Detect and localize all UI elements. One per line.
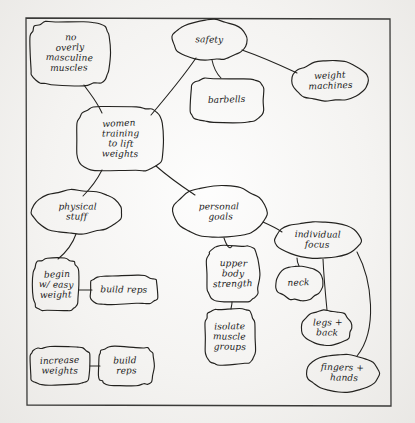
- node-label-upper-body: upper: [220, 258, 248, 268]
- edge-center-to-safety: [151, 58, 196, 115]
- node-label-personal-goals: goals: [208, 211, 233, 222]
- node-label-fingers-hands: fingers +: [320, 362, 365, 373]
- node-label-center: to lift: [108, 138, 134, 149]
- node-label-fingers-hands: hands: [330, 372, 358, 383]
- node-increase-weights[interactable]: increaseweights: [30, 346, 90, 385]
- node-label-no-masculine: no: [65, 32, 77, 42]
- node-label-physical-stuff: physical: [58, 201, 96, 211]
- node-label-begin-easy: weight: [40, 289, 72, 300]
- node-label-no-masculine: masculine: [46, 52, 93, 63]
- node-personal-goals[interactable]: personalgoals: [172, 186, 267, 238]
- node-label-increase-weights: weights: [41, 366, 78, 376]
- node-individual-focus[interactable]: individualfocus: [275, 222, 362, 259]
- node-label-legs-back: legs +: [313, 317, 343, 327]
- node-weight-machines[interactable]: weightmachines: [292, 61, 369, 102]
- node-label-individual-focus: individual: [295, 229, 341, 240]
- node-barbells[interactable]: barbells: [190, 78, 264, 123]
- node-label-begin-easy: w/ easy: [39, 279, 75, 290]
- node-legs-back[interactable]: legs +back: [301, 310, 351, 346]
- node-label-center: training: [102, 128, 139, 139]
- edge-physical-stuff-to-begin-easy: [58, 234, 76, 259]
- node-label-build-reps-1: build reps: [100, 284, 147, 295]
- node-build-reps-2[interactable]: buildreps: [98, 346, 154, 386]
- node-label-safety: safety: [195, 34, 224, 45]
- edge-personal-goals-to-upper-body: [224, 238, 232, 248]
- concept-map-drawing: womentrainingto liftweightsnooverlymascu…: [0, 0, 415, 423]
- edge-individual-focus-to-fingers-hands: [357, 252, 371, 356]
- node-upper-body[interactable]: upperbodystrength: [206, 245, 260, 302]
- edge-individual-focus-to-legs-back: [323, 259, 327, 310]
- edge-center-to-personal-goals: [156, 166, 195, 195]
- node-begin-easy[interactable]: beginw/ easyweight: [32, 258, 79, 311]
- edge-center-to-no-masculine: [84, 85, 102, 113]
- node-label-begin-easy: begin: [44, 269, 70, 280]
- node-physical-stuff[interactable]: physicalstuff: [31, 189, 122, 234]
- node-isolate-muscle[interactable]: isolatemusclegroups: [205, 308, 256, 365]
- node-label-individual-focus: focus: [304, 239, 330, 250]
- node-label-personal-goals: personal: [199, 201, 239, 211]
- node-label-no-masculine: overly: [56, 42, 86, 53]
- edge-upper-body-to-isolate-muscle: [231, 302, 232, 309]
- node-neck[interactable]: neck: [276, 266, 323, 301]
- nodes-layer: womentrainingto liftweightsnooverlymascu…: [30, 19, 380, 392]
- node-label-isolate-muscle: groups: [214, 341, 247, 352]
- edge-individual-focus-to-neck: [297, 258, 299, 266]
- node-build-reps-1[interactable]: build reps: [90, 275, 158, 305]
- concept-map-canvas: womentrainingto liftweightsnooverlymascu…: [0, 0, 415, 423]
- edge-safety-to-weight-machines: [242, 50, 297, 73]
- node-label-build-reps-2: build: [113, 355, 137, 365]
- node-fingers-hands[interactable]: fingers +hands: [307, 354, 380, 392]
- node-label-weight-machines: machines: [308, 80, 353, 92]
- node-label-upper-body: strength: [213, 278, 253, 289]
- edge-safety-to-barbells: [212, 60, 221, 78]
- node-label-physical-stuff: stuff: [66, 212, 89, 222]
- node-safety[interactable]: safety: [172, 19, 247, 60]
- node-center[interactable]: womentrainingto liftweights: [77, 106, 164, 170]
- node-no-masculine[interactable]: nooverlymasculinemuscles: [30, 21, 111, 86]
- node-label-center: weights: [102, 148, 139, 159]
- node-label-upper-body: body: [222, 268, 245, 279]
- node-label-neck: neck: [287, 277, 309, 288]
- node-label-build-reps-2: reps: [116, 365, 137, 376]
- node-label-no-masculine: muscles: [50, 63, 88, 74]
- node-label-increase-weights: increase: [40, 355, 80, 366]
- node-label-isolate-muscle: muscle: [213, 331, 246, 341]
- node-label-barbells: barbells: [208, 94, 246, 105]
- node-label-isolate-muscle: isolate: [214, 321, 245, 331]
- node-label-legs-back: back: [316, 327, 338, 338]
